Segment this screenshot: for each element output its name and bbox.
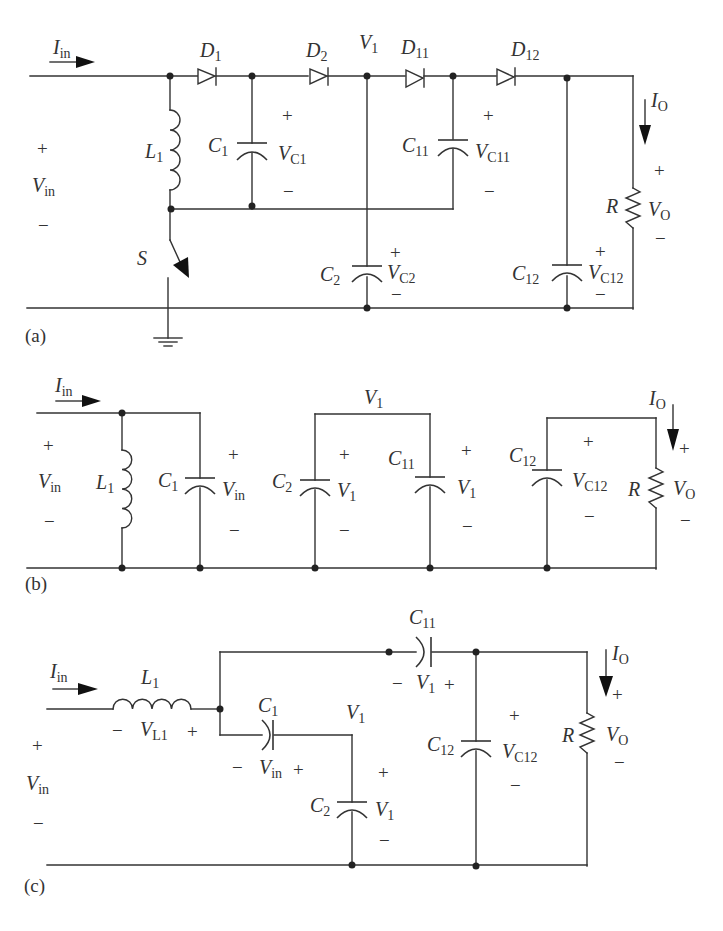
- label-vo: VO: [648, 198, 670, 223]
- panel-c-junctions: [217, 649, 480, 870]
- panel-a-junctions: [167, 73, 571, 312]
- vin-plus-sign: +: [32, 735, 43, 756]
- vc11-plus-sign: +: [444, 674, 455, 695]
- panel-b-junctions: [119, 410, 551, 572]
- label-vc1: VC1: [278, 142, 307, 167]
- panel-a: Iin + Vin − L1 S D1 D2 V1 D11 D12 C1 + V…: [25, 31, 670, 347]
- panel-a-wires: [27, 76, 633, 338]
- label-l1: L1: [140, 666, 159, 691]
- vc12-minus-sign: −: [584, 506, 595, 527]
- label-i-in: Iin: [49, 660, 68, 685]
- vc1-minus-sign: −: [232, 757, 243, 778]
- label-i-in: Iin: [54, 374, 73, 399]
- label-l1: L1: [144, 140, 163, 165]
- switch-s: [170, 240, 189, 278]
- label-vc2: V1: [375, 798, 394, 823]
- label-i-in: Iin: [52, 36, 71, 61]
- vin-plus-sign: +: [43, 435, 54, 456]
- diode-d1-icon: [198, 68, 216, 85]
- vc12-minus-sign: −: [595, 284, 606, 305]
- label-c2: C2: [272, 470, 292, 495]
- vc11-minus-sign: −: [392, 673, 403, 694]
- label-c11: C11: [402, 134, 429, 159]
- vc1-plus-sign: +: [282, 105, 293, 126]
- vo-minus-sign: −: [655, 228, 666, 249]
- label-r: R: [605, 195, 618, 217]
- vc12-plus-sign: +: [583, 431, 594, 452]
- label-node-v1: V1: [364, 386, 383, 411]
- panel-b-caption: (b): [25, 573, 47, 595]
- vc12-minus-sign: −: [510, 775, 521, 796]
- label-c12: C12: [509, 444, 536, 469]
- label-vo: VO: [606, 723, 628, 748]
- inductor-l1-icon: [113, 699, 191, 709]
- vc11-minus-sign: −: [462, 516, 473, 537]
- panel-b: Iin + Vin − L1 C1 + Vin − V1 C2 + V1 − C…: [25, 374, 695, 595]
- vc11-plus-sign: +: [461, 440, 472, 461]
- label-c2: C2: [310, 794, 330, 819]
- label-vc12: VC12: [502, 740, 538, 765]
- label-c12: C12: [427, 733, 454, 758]
- output-current-arrow-icon: [639, 100, 651, 145]
- vl1-minus-sign: −: [112, 720, 123, 741]
- vc2-minus-sign: −: [339, 520, 350, 541]
- label-vo: VO: [673, 477, 695, 502]
- panel-c: Iin + Vin − L1 − VL1 + C1 − Vin + V1 C2 …: [24, 606, 629, 897]
- vc11-minus-sign: −: [484, 181, 495, 202]
- capacitor-c11-icon: [416, 637, 431, 667]
- vo-minus-sign: −: [614, 752, 625, 773]
- label-vc1: Vin: [222, 478, 245, 503]
- vc2-minus-sign: −: [391, 284, 402, 305]
- label-vc1: Vin: [259, 756, 282, 781]
- vc2-plus-sign: +: [390, 242, 401, 263]
- vc12-plus-sign: +: [595, 241, 606, 262]
- label-vc11: VC11: [475, 140, 510, 165]
- label-c1: C1: [258, 694, 278, 719]
- resistor-r-icon: [626, 188, 640, 228]
- vc2-plus-sign: +: [339, 444, 350, 465]
- label-io: IO: [648, 387, 666, 412]
- label-v-in: Vin: [38, 470, 61, 495]
- vc1-minus-sign: −: [229, 520, 240, 541]
- label-v-in: Vin: [32, 174, 55, 199]
- vc1-plus-sign: +: [228, 444, 239, 465]
- diode-d11-icon: [406, 69, 424, 87]
- capacitor-c1-icon: [262, 720, 273, 750]
- label-io: IO: [611, 642, 629, 667]
- label-c2: C2: [320, 263, 340, 288]
- label-vc12: VC12: [572, 469, 608, 494]
- label-vc2: V1: [337, 479, 356, 504]
- output-current-arrow-icon: [667, 405, 679, 451]
- vc12-plus-sign: +: [509, 705, 520, 726]
- label-vl1: VL1: [140, 718, 168, 743]
- label-r: R: [627, 478, 640, 500]
- vc11-plus-sign: +: [483, 105, 494, 126]
- vc1-plus-sign: +: [293, 759, 304, 780]
- vo-plus-sign: +: [654, 160, 665, 181]
- label-vc2: VC2: [387, 261, 416, 286]
- resistor-r-icon: [649, 468, 663, 508]
- output-current-arrow-icon: [599, 650, 613, 697]
- vo-plus-sign: +: [612, 684, 623, 705]
- vc2-plus-sign: +: [378, 762, 389, 783]
- vin-minus-sign: −: [44, 511, 55, 532]
- label-d1: D1: [199, 39, 221, 64]
- label-d2: D2: [305, 39, 327, 64]
- label-s: S: [137, 247, 147, 269]
- diode-d12-icon: [497, 68, 515, 85]
- vc2-minus-sign: −: [379, 830, 390, 851]
- label-c1: C1: [208, 134, 228, 159]
- inductor-l1-icon: [122, 450, 132, 528]
- panel-a-caption: (a): [25, 325, 46, 347]
- label-io: IO: [650, 89, 668, 114]
- vin-minus-sign: −: [38, 215, 49, 236]
- ground-icon: [154, 338, 182, 346]
- label-vc11: V1: [457, 476, 476, 501]
- vl1-plus-sign: +: [187, 721, 198, 742]
- vin-plus-sign: +: [37, 138, 48, 159]
- label-vc11: V1: [416, 671, 435, 696]
- label-d11: D11: [400, 36, 429, 61]
- vin-minus-sign: −: [33, 813, 44, 834]
- circuit-figure: Iin + Vin − L1 S D1 D2 V1 D11 D12 C1 + V…: [0, 0, 723, 931]
- label-d12: D12: [510, 38, 539, 63]
